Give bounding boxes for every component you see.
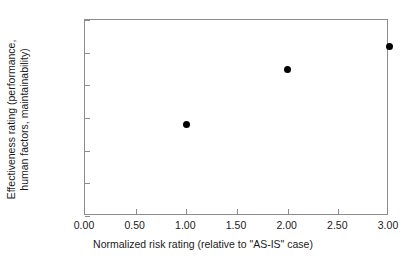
x-tick-mark [237, 209, 238, 214]
data-point [386, 43, 393, 50]
x-tick-mark [338, 209, 339, 214]
y-axis-title-line-2: human factors, maintainability) [17, 14, 30, 226]
y-tick-mark [85, 20, 90, 21]
y-tick-mark [85, 216, 90, 217]
x-axis-title: Normalized risk rating (relative to "AS-… [0, 238, 406, 250]
y-tick-mark [85, 183, 90, 184]
y-axis-title: Effectiveness rating (performance, human… [5, 14, 30, 226]
x-tick-label: 1.00 [175, 220, 195, 231]
x-tick-label: 2.50 [327, 220, 347, 231]
y-axis-title-line-1: Effectiveness rating (performance, [5, 14, 18, 226]
x-tick-label: 0.50 [124, 220, 144, 231]
x-tick-mark [136, 209, 137, 214]
x-tick-mark [186, 209, 187, 214]
x-tick-mark [288, 209, 289, 214]
x-tick-label: 0.00 [74, 220, 94, 231]
y-tick-mark [85, 53, 90, 54]
y-tick-mark [85, 118, 90, 119]
data-point [284, 66, 291, 73]
scatter-chart-figure: 0.0020.0040.0060.0080.00100.00120.00 0.0… [0, 0, 406, 264]
plot-area [84, 19, 388, 215]
y-tick-mark [85, 85, 90, 86]
data-point [183, 121, 190, 128]
x-tick-label: 2.00 [276, 220, 296, 231]
x-tick-label: 3.00 [378, 220, 398, 231]
y-tick-mark [85, 151, 90, 152]
x-tick-label: 1.50 [226, 220, 246, 231]
